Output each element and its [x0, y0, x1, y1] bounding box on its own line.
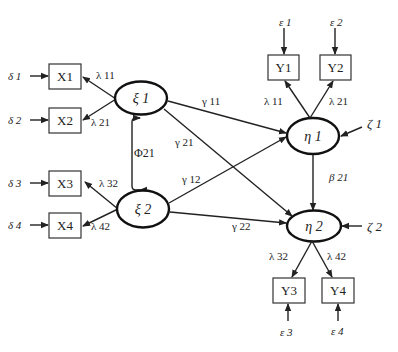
xi2-label: ξ 2	[135, 202, 152, 217]
lambda21-x-label: λ 21	[91, 116, 110, 128]
y3-label: Y3	[281, 283, 297, 298]
delta2-label: δ 2	[8, 114, 22, 126]
lambda42-y-label: λ 42	[327, 250, 346, 262]
xi1-label: ξ 1	[133, 91, 150, 106]
x3-node: X3	[49, 171, 81, 196]
path-eta1-y1	[285, 81, 310, 118]
beta21-label: β 21	[328, 171, 348, 183]
y4-node: Y4	[322, 278, 354, 303]
eta2-node: η 2	[287, 211, 341, 242]
gamma21-label: γ 21	[174, 136, 194, 148]
y1-node: Y1	[268, 55, 299, 80]
phi21-label: Φ21	[134, 146, 155, 160]
xi1-node: ξ 1	[115, 82, 167, 115]
gamma22-label: γ 22	[231, 220, 251, 232]
lambda42-x-label: λ 42	[91, 220, 110, 232]
delta3-label: δ 3	[8, 177, 22, 189]
x4-label: X4	[57, 218, 73, 233]
x4-node: X4	[49, 213, 81, 238]
xi2-node: ξ 2	[117, 191, 169, 228]
y2-node: Y2	[320, 55, 351, 80]
zeta1-label: ζ 1	[367, 116, 382, 131]
lambda32-x-label: λ 32	[99, 177, 118, 189]
eta1-node: η 1	[287, 118, 339, 154]
y3-node: Y3	[273, 278, 305, 303]
eps4-label: ε 4	[331, 325, 344, 337]
gamma12-label: γ 12	[181, 173, 201, 185]
delta4-label: δ 4	[8, 219, 22, 231]
path-xi1-eta2	[164, 109, 292, 216]
x2-node: X2	[49, 108, 81, 133]
x2-label: X2	[57, 113, 73, 128]
eps2-label: ε 2	[330, 16, 343, 28]
delta1-label: δ 1	[8, 70, 21, 82]
x1-label: X1	[57, 69, 73, 84]
gamma11-label: γ 11	[201, 95, 220, 107]
lambda11-y-label: λ 11	[264, 95, 283, 107]
eps1-label: ε 1	[279, 16, 292, 28]
delta-arrows	[30, 76, 48, 225]
arrow-zeta1-eta1	[341, 127, 362, 136]
path-xi2-eta2	[170, 212, 286, 223]
path-eta2-y3	[292, 241, 312, 277]
y4-label: Y4	[330, 283, 346, 298]
y2-label: Y2	[328, 60, 344, 75]
eta1-label: η 1	[304, 129, 321, 144]
x1-node: X1	[49, 64, 81, 89]
sem-path-diagram: δ 1 δ 2 δ 3 δ 4 X1 X2 X3 X4 λ 11 λ 21 λ …	[0, 0, 398, 352]
lambda32-y-label: λ 32	[269, 250, 288, 262]
eps3-label: ε 3	[280, 326, 293, 338]
zeta2-label: ζ 2	[367, 219, 383, 234]
y1-label: Y1	[276, 60, 292, 75]
lambda11-x-label: λ 11	[96, 69, 115, 81]
x3-label: X3	[57, 176, 73, 191]
eta2-label: η 2	[305, 219, 322, 234]
lambda21-y-label: λ 21	[329, 95, 348, 107]
